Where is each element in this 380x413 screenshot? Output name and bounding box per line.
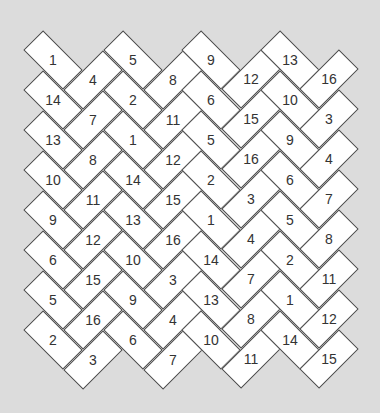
herringbone-number-grid: 1141310965247811121516352114131096811121… xyxy=(0,0,380,413)
